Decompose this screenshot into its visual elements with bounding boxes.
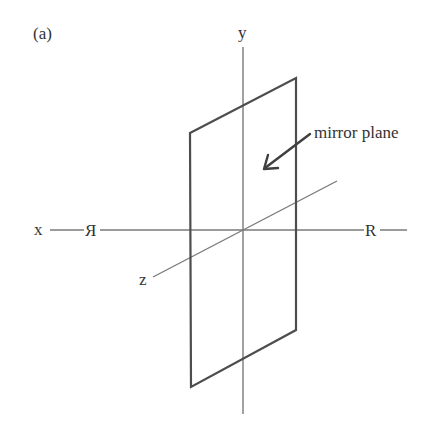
y-axis-label: y bbox=[238, 23, 247, 42]
z-axis-label: z bbox=[139, 270, 147, 289]
arrow-icon bbox=[264, 134, 310, 169]
panel-label: (a) bbox=[33, 24, 52, 43]
mirrored-r-letter: Я bbox=[85, 221, 96, 240]
mirror-plane-diagram: (a) y x z Я R mirror plane bbox=[0, 0, 448, 428]
x-axis-label: x bbox=[34, 220, 43, 239]
z-axis bbox=[153, 181, 337, 277]
mirror-plane-annotation: mirror plane bbox=[314, 123, 399, 142]
r-letter: R bbox=[365, 221, 377, 240]
